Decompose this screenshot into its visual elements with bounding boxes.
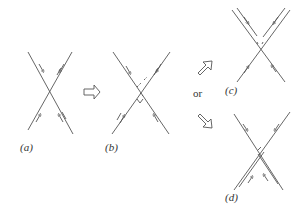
strand-d-descending-2 [258, 154, 278, 184]
panel-label-d: (d) [225, 191, 238, 203]
arrow-icon [264, 175, 268, 181]
strand-d-ascending-2 [239, 152, 264, 187]
arrow-icon [154, 115, 158, 122]
arrow-icon [120, 116, 124, 123]
strand-c-descending-1 [232, 10, 285, 82]
strand-a-descending [28, 52, 73, 134]
arrow-icon [244, 17, 248, 23]
right-arrow-icon [84, 85, 100, 99]
break-mark [137, 99, 143, 103]
arrow-icon [274, 17, 278, 23]
down-right-arrow-icon [198, 114, 212, 128]
up-right-arrow-icon [198, 61, 212, 75]
panel-b [112, 52, 170, 134]
diagram-canvas [0, 0, 302, 216]
arrow-icon [57, 68, 61, 75]
arrow-icon [117, 113, 121, 120]
arrow-icon [39, 64, 43, 71]
arrow-icon [244, 67, 248, 73]
panel-label-c: (c) [225, 84, 237, 96]
arrow-icon [157, 64, 161, 71]
strand-d-ascending-1 [234, 112, 290, 190]
panel-label-b: (b) [105, 141, 118, 153]
panel-c [232, 8, 290, 82]
arrow-icon [248, 177, 252, 183]
arrow-icon [275, 124, 279, 130]
panel-a [28, 52, 73, 134]
arrow-icon [59, 115, 63, 122]
break-mark [137, 77, 147, 87]
panel-label-a: (a) [20, 141, 33, 153]
break-mark [258, 147, 261, 150]
arrow-icon [36, 115, 40, 122]
arrow-icon [154, 68, 158, 75]
or-label: or [193, 87, 202, 99]
strand-d-descending-1 [234, 114, 283, 190]
panel-d [234, 112, 290, 190]
break-mark [257, 42, 263, 44]
